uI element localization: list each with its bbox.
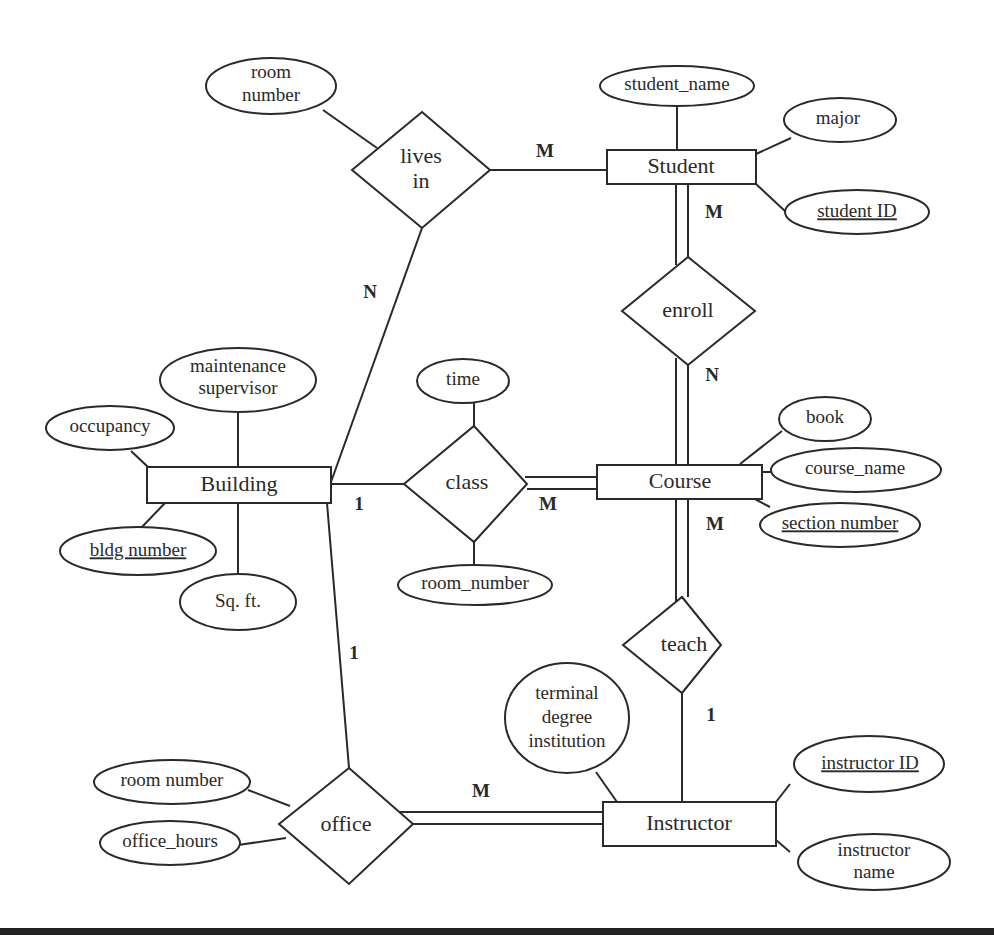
attribute-instructor-name[interactable]: instructor name (798, 834, 950, 890)
attribute-sq-ft[interactable]: Sq. ft. (180, 574, 296, 630)
bottom-divider-rule (0, 928, 994, 935)
svg-text:office_hours: office_hours (122, 830, 218, 851)
entity-instructor[interactable]: Instructor (603, 802, 776, 846)
svg-text:room_number: room_number (421, 572, 529, 593)
svg-text:degree: degree (542, 706, 593, 727)
svg-text:instructor ID: instructor ID (821, 752, 919, 773)
svg-text:room: room (251, 61, 291, 82)
svg-text:major: major (816, 107, 861, 128)
svg-text:book: book (806, 406, 845, 427)
attribute-section-number[interactable]: section number (760, 503, 920, 547)
cardinality-lives-in-student: M (536, 140, 554, 161)
entity-label: Instructor (646, 810, 732, 835)
cardinality-teach-instructor: 1 (706, 704, 716, 725)
entity-building[interactable]: Building (147, 467, 331, 503)
svg-text:student ID: student ID (817, 200, 897, 221)
cardinality-enroll-student: M (705, 201, 723, 222)
svg-text:student_name: student_name (624, 73, 730, 94)
svg-text:time: time (446, 368, 480, 389)
cardinality-class-building: 1 (354, 493, 364, 514)
attribute-room-number-class[interactable]: room_number (398, 565, 552, 605)
cardinality-enroll-course: N (705, 364, 719, 385)
attribute-office-hours[interactable]: office_hours (100, 821, 240, 865)
entity-course[interactable]: Course (597, 465, 762, 499)
svg-text:institution: institution (528, 730, 606, 751)
svg-text:maintenance: maintenance (190, 355, 286, 376)
svg-text:bldg number: bldg number (90, 539, 187, 560)
relationship-label: class (446, 469, 489, 494)
attribute-room-number-office[interactable]: room number (94, 760, 250, 804)
attribute-bldg-number[interactable]: bldg number (60, 527, 216, 575)
attribute-occupancy[interactable]: occupancy (46, 406, 174, 450)
relationship-label-line-2: in (412, 168, 429, 193)
attribute-course-name[interactable]: course_name (771, 448, 941, 492)
svg-text:name: name (853, 861, 894, 882)
svg-text:instructor: instructor (838, 839, 911, 860)
svg-text:number: number (242, 84, 301, 105)
relationship-class[interactable]: class (404, 426, 527, 542)
attribute-student-id[interactable]: student ID (785, 190, 929, 234)
relationship-enroll[interactable]: enroll (622, 257, 755, 365)
attribute-major[interactable]: major (784, 98, 896, 142)
entity-student[interactable]: Student (607, 150, 756, 184)
attribute-terminal-degree-institution[interactable]: terminal degree institution (505, 663, 629, 773)
cardinality-teach-course: M (706, 513, 724, 534)
attribute-maintenance-supervisor[interactable]: maintenance supervisor (160, 348, 316, 412)
relationship-label: enroll (662, 297, 713, 322)
relationship-label: teach (661, 631, 707, 656)
cardinality-office-building: 1 (349, 642, 359, 663)
svg-text:Sq. ft.: Sq. ft. (215, 590, 261, 611)
entity-label: Student (647, 153, 714, 178)
attribute-instructor-id[interactable]: instructor ID (794, 736, 944, 792)
svg-text:occupancy: occupancy (69, 415, 151, 436)
relationship-label-line-1: lives (400, 143, 442, 168)
relationship-label: office (321, 811, 372, 836)
svg-text:terminal: terminal (535, 682, 598, 703)
svg-text:section number: section number (782, 512, 899, 533)
entity-label: Building (200, 471, 277, 496)
attribute-student-name[interactable]: student_name (600, 66, 754, 106)
attribute-book[interactable]: book (779, 397, 871, 441)
relationship-lives-in[interactable]: lives in (352, 112, 490, 228)
svg-text:supervisor: supervisor (198, 377, 278, 398)
cardinality-office-instructor: M (472, 780, 490, 801)
relationship-teach[interactable]: teach (623, 597, 721, 693)
er-diagram: Student Course Building Instructor lives… (0, 0, 994, 941)
cardinality-lives-in-building: N (363, 281, 377, 302)
svg-text:room number: room number (121, 769, 225, 790)
attribute-room-number-lives-in[interactable]: room number (206, 58, 336, 114)
svg-text:course_name: course_name (805, 457, 905, 478)
relationship-office[interactable]: office (279, 768, 413, 884)
cardinality-class-course: M (539, 493, 557, 514)
attribute-time[interactable]: time (417, 359, 509, 403)
entity-label: Course (649, 468, 711, 493)
